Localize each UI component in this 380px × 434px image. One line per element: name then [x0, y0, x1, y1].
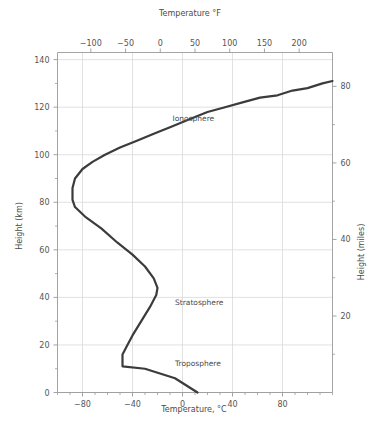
top-axis-title: Temperature °F: [158, 9, 221, 18]
tick-label-top: −100: [80, 39, 102, 48]
tick-label-right: 60: [341, 159, 351, 168]
bottom-axis-title: Temperature, °C: [160, 405, 227, 414]
tick-label-bottom: 40: [227, 400, 237, 409]
tick-label-right: 80: [341, 82, 351, 91]
tick-label-left: 80: [39, 198, 49, 207]
chart-canvas: −80−4004080−100−500501001502000204060801…: [0, 0, 380, 434]
axis-tick-labels: −80−4004080−100−500501001502000204060801…: [34, 39, 350, 409]
profile-curve: [73, 81, 333, 392]
atmosphere-temperature-profile-figure: −80−4004080−100−500501001502000204060801…: [0, 0, 380, 434]
tick-label-right: 40: [341, 235, 351, 244]
tick-label-left: 20: [39, 341, 49, 350]
tick-label-bottom: −80: [74, 400, 91, 409]
tick-label-left: 0: [44, 389, 49, 398]
tick-label-left: 140: [34, 56, 49, 65]
tick-label-bottom: 80: [277, 400, 287, 409]
layer-annotations: IonosphereStratosphereTroposphere: [173, 114, 224, 368]
tick-label-right: 20: [341, 312, 351, 321]
plot-frame: [58, 53, 333, 393]
tick-label-left: 120: [34, 103, 49, 112]
tick-label-top: 150: [257, 39, 272, 48]
layer-label: Ionosphere: [173, 114, 215, 123]
tick-label-top: 0: [158, 39, 163, 48]
tick-label-bottom: −40: [124, 400, 141, 409]
left-axis-title: Height (km): [15, 202, 24, 250]
axis-ticks: [54, 49, 337, 397]
grid-lines: [58, 53, 333, 393]
right-axis-title: Height (miles): [357, 224, 366, 281]
temperature-profile-line: [73, 81, 333, 392]
tick-label-left: 40: [39, 293, 49, 302]
layer-label: Stratosphere: [175, 298, 224, 307]
tick-label-top: 200: [292, 39, 307, 48]
tick-label-left: 60: [39, 246, 49, 255]
layer-label: Troposphere: [174, 359, 221, 368]
tick-label-left: 100: [34, 151, 49, 160]
tick-label-top: 100: [222, 39, 237, 48]
tick-label-top: 50: [190, 39, 200, 48]
tick-label-top: −50: [117, 39, 134, 48]
